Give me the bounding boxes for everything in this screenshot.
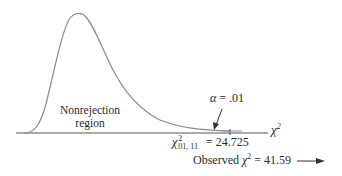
alpha-value: = .01 [216,91,244,105]
observed-value-label: Observed χ2 = 41.59 [193,154,291,167]
alpha-label: α = .01 [210,92,244,105]
nonrejection-region-label: Nonrejection region [56,104,124,130]
crit-value: = 24.725 [203,135,249,149]
region-label-line2: region [56,117,124,130]
observed-arrow-head [316,158,325,164]
x-axis-label: χ2 [271,123,281,136]
crit-sub: .01, 11 [176,142,198,151]
region-label-line1: Nonrejection [56,104,124,117]
alpha-arrow-head [213,122,219,130]
alpha-arrow-line [216,109,222,125]
axis-sup: 2 [277,122,281,131]
chi-square-chart [0,0,342,176]
density-curve [24,13,230,133]
obs-value: = 41.59 [251,153,291,167]
critical-value-label: χ2.01, 11 = 24.725 [172,136,249,149]
obs-prefix: Observed [193,153,242,167]
